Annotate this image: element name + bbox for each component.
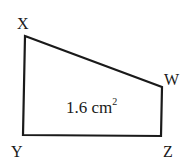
quadrilateral-diagram: X W Y Z 1.6 cm2 (0, 0, 190, 164)
vertex-label-w: W (164, 71, 180, 88)
vertex-label-z: Z (163, 143, 173, 160)
area-value: 1.6 cm (66, 98, 112, 117)
vertex-label-x: X (17, 15, 29, 32)
area-exponent: 2 (112, 96, 117, 107)
quadrilateral-xwzy (23, 36, 162, 136)
area-label: 1.6 cm2 (66, 96, 117, 117)
vertex-label-y: Y (11, 143, 23, 160)
